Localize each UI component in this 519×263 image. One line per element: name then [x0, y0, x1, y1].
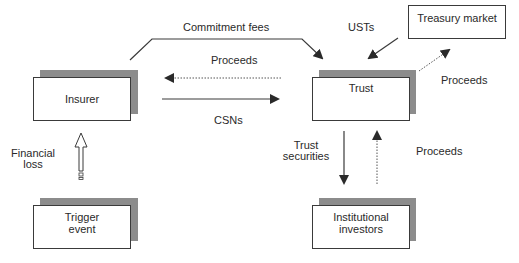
trust-label: Trust: [313, 82, 409, 95]
proceeds-to-treasury-arrow: [419, 50, 449, 71]
proceeds-to-treasury-label: Proceeds: [441, 74, 487, 87]
proceeds-to-insurer-label: Proceeds: [211, 54, 257, 67]
institutional-investors-node[interactable]: Institutional investors: [312, 205, 410, 249]
insurer-node[interactable]: Insurer: [33, 77, 131, 121]
usts-arrow: [369, 38, 398, 58]
insurer-label: Insurer: [34, 93, 130, 106]
usts-label: USTs: [348, 21, 374, 34]
treasury-market-node[interactable]: Treasury market: [408, 5, 506, 39]
trigger-event-node[interactable]: Trigger event: [33, 205, 131, 249]
proceeds-to-trust-label: Proceeds: [416, 145, 462, 158]
trigger-event-label-line2: event: [34, 223, 130, 236]
financial-loss-arrow: [75, 133, 87, 180]
institutional-investors-label-line2: investors: [313, 223, 409, 236]
treasury-market-label: Treasury market: [409, 12, 505, 25]
financial-loss-label-line2: loss: [8, 158, 58, 171]
trust-node[interactable]: Trust: [312, 77, 410, 121]
trust-securities-label-line2: securities: [278, 150, 334, 163]
csns-label: CSNs: [214, 114, 243, 127]
commitment-fees-label: Commitment fees: [183, 21, 269, 34]
